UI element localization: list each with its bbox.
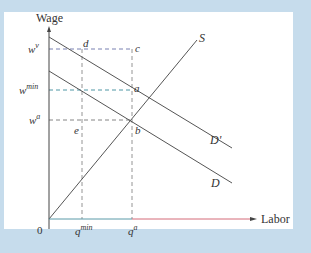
wa-label: wa	[29, 112, 40, 126]
x-axis-label: Labor	[261, 212, 290, 226]
wmin-label: wmin	[19, 82, 38, 96]
point-a-label: a	[134, 82, 140, 94]
labor-market-diagram: Wage Labor 0 wv wmin wa qmin qa S D' D d…	[0, 0, 311, 253]
qa-label: qa	[128, 223, 138, 237]
y-axis-arrow-icon	[47, 26, 51, 32]
x-axis-arrow-icon	[250, 217, 257, 221]
point-d-label: d	[83, 37, 89, 49]
demand-label: D	[210, 176, 220, 190]
origin-label: 0	[37, 224, 43, 236]
supply-curve	[49, 40, 197, 219]
point-b-label: b	[135, 124, 141, 136]
wv-label: wv	[28, 41, 39, 55]
qmin-label: qmin	[75, 223, 93, 237]
demand-shifted-label: D'	[209, 133, 222, 147]
y-axis-label: Wage	[36, 11, 63, 25]
supply-label: S	[199, 31, 205, 45]
point-c-label: c	[135, 42, 140, 54]
point-e-label: e	[74, 124, 79, 136]
